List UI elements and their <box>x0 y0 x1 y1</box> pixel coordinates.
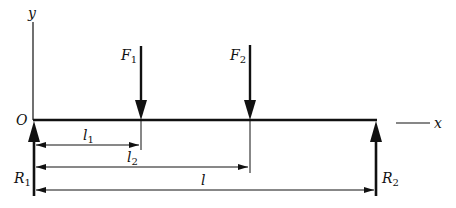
y-axis-label: y <box>28 6 36 20</box>
beam-diagram: y x O F1 F2 R1 R2 l1 l2 l <box>0 0 456 208</box>
reaction-r2-label: R2 <box>382 171 399 188</box>
dimension-l1-label: l1 <box>83 128 94 145</box>
dimension-l-label: l <box>201 173 205 187</box>
dimension-l <box>36 187 374 193</box>
x-axis-label: x <box>434 116 442 130</box>
force-f1-label: F1 <box>121 48 137 65</box>
force-f2-label: F2 <box>230 48 246 65</box>
dimension-l2-label: l2 <box>127 150 138 167</box>
reaction-arrow-r2 <box>370 121 382 196</box>
origin-label: O <box>16 113 27 127</box>
dimension-l2 <box>36 164 248 170</box>
reaction-r1-label: R1 <box>14 171 31 188</box>
